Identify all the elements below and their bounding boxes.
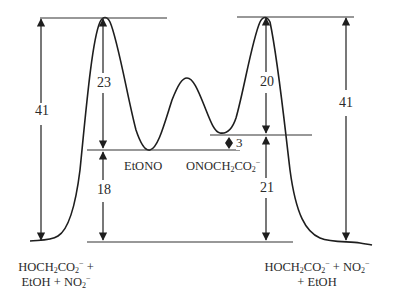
products-line2: + EtOH bbox=[259, 275, 375, 290]
products-l1-b: CO bbox=[304, 260, 321, 274]
onoch2co2-part-b: CO bbox=[234, 159, 251, 173]
energy-profile-diagram bbox=[0, 0, 393, 303]
reactants-l1-b: CO bbox=[58, 260, 75, 274]
label-18: 18 bbox=[95, 182, 113, 198]
label-reactants: HOCH2CO2− + EtOH + NO2− bbox=[16, 260, 96, 290]
etono-text: EtONO bbox=[124, 159, 162, 173]
label-right-41: 41 bbox=[337, 95, 355, 111]
products-l1-a: HOCH bbox=[264, 260, 299, 274]
label-products: HOCH2CO2− + NO2− + EtOH bbox=[259, 260, 375, 290]
label-onoch2co2: ONOCH2CO2− bbox=[186, 159, 260, 174]
label-20: 20 bbox=[258, 74, 276, 90]
reactants-line1: HOCH2CO2− + bbox=[16, 260, 96, 275]
label-23: 23 bbox=[95, 75, 113, 91]
reactants-l2-a: EtOH + NO bbox=[21, 275, 82, 289]
products-l1-c-charge: − bbox=[365, 259, 370, 268]
label-etono: EtONO bbox=[124, 159, 162, 174]
onoch2co2-charge: − bbox=[256, 158, 261, 167]
reactants-l2-charge: − bbox=[86, 274, 91, 283]
reactants-l1-a: HOCH bbox=[18, 260, 53, 274]
reactants-l1-tail: + bbox=[84, 260, 94, 274]
label-left-41: 41 bbox=[33, 103, 51, 119]
products-line1: HOCH2CO2− + NO2− bbox=[259, 260, 375, 275]
label-3: 3 bbox=[236, 136, 243, 150]
energy-curve bbox=[30, 18, 372, 246]
reactants-line2: EtOH + NO2− bbox=[16, 275, 96, 290]
gap-3-diamond-icon bbox=[225, 137, 233, 149]
products-l2-a: + EtOH bbox=[297, 275, 336, 289]
onoch2co2-part-a: ONOCH bbox=[186, 159, 230, 173]
products-l1-c: + NO bbox=[330, 260, 361, 274]
label-21: 21 bbox=[258, 180, 276, 196]
